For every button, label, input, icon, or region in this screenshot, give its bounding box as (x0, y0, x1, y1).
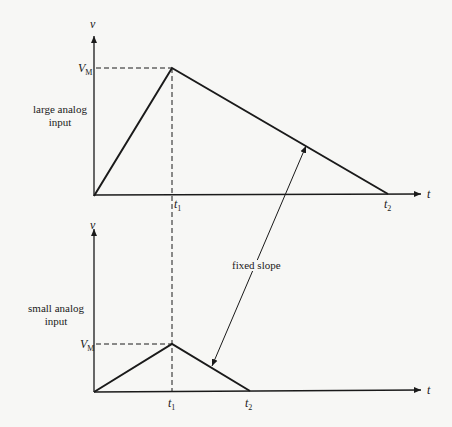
bottom-t1-sub: 1 (171, 403, 175, 412)
top-x-axis (94, 194, 421, 195)
bottom-x-axis-label: t (427, 384, 430, 396)
top-y-axis-label: v (90, 18, 95, 30)
bottom-t2-sub: 2 (248, 403, 252, 412)
bottom-vm-sub: M (87, 344, 94, 353)
top-side-label: large analog input (22, 103, 98, 129)
bottom-vm-label: VM (80, 338, 94, 353)
bottom-side-label-line1: small analog (18, 302, 94, 315)
bottom-t2-label: t2 (245, 397, 252, 412)
top-side-label-line1: large analog (22, 103, 98, 116)
top-side-label-line2: input (22, 116, 98, 129)
top-plot (94, 36, 421, 196)
top-t2-sub: 2 (387, 204, 391, 213)
top-waveform (94, 68, 388, 196)
bottom-y-axis-label: v (90, 219, 95, 231)
top-t1-label: t1 (174, 198, 181, 213)
fixed-slope-label: fixed slope (231, 260, 282, 271)
bottom-side-label: small analog input (18, 302, 94, 328)
bottom-x-axis (94, 390, 421, 392)
diagram-canvas (0, 0, 452, 427)
top-t2-label: t2 (384, 198, 391, 213)
top-vm-label: VM (78, 62, 92, 77)
top-x-axis-label: t (427, 188, 430, 200)
bottom-side-label-line2: input (18, 315, 94, 328)
bottom-t1-label: t1 (168, 397, 175, 412)
top-t1-sub: 1 (177, 204, 181, 213)
dual-slope-diagram: large analog input v VM t1 t2 t small an… (0, 0, 452, 427)
bottom-plot (94, 229, 421, 392)
top-vm-sub: M (85, 68, 92, 77)
fixed-slope-arrow (212, 146, 306, 366)
